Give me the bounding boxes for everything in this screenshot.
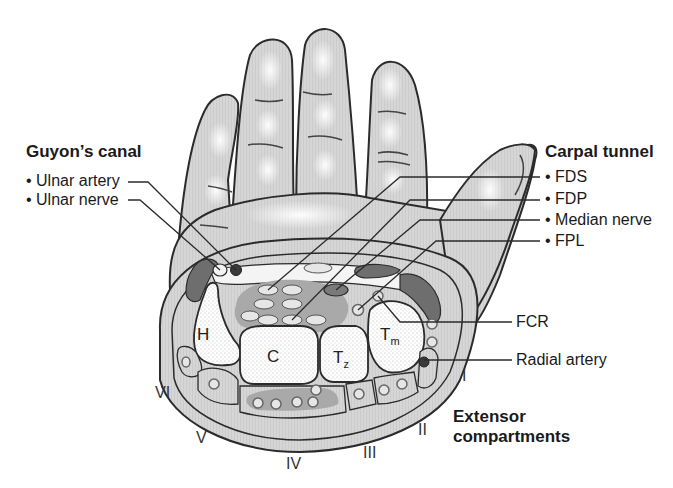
carpal-tunnel-title: Carpal tunnel (545, 143, 654, 160)
palmaris-tendon (304, 263, 332, 273)
trapezoid-bone (320, 326, 368, 382)
extensor-title-line2: compartments (453, 428, 570, 445)
wrist-cross-section: H C Tz Tm (160, 239, 478, 452)
compartment-label-iii: III (363, 445, 376, 461)
extensor-title-line1: Extensor (453, 408, 526, 425)
carpal-tunnel-item-fds: • FDS (545, 169, 587, 185)
fdp-tendon (282, 299, 302, 309)
guyons-canal-item-ulnar-artery: • Ulnar artery (26, 173, 120, 189)
guyons-canal-item-ulnar-nerve: • Ulnar nerve (26, 192, 119, 208)
fds-tendon (282, 285, 302, 295)
compartment-label-v: V (196, 430, 207, 446)
carpal-tunnel-item-fpl: • FPL (545, 233, 584, 249)
bone-label-hamate: H (197, 325, 209, 344)
fdp-tendon (306, 315, 326, 325)
fdp-tendon (258, 315, 278, 325)
carpal-tunnel-item-fdp: • FDP (545, 191, 587, 207)
label-radial-artery: Radial artery (516, 352, 607, 368)
carpal-tunnel-item-median-nerve: • Median nerve (545, 212, 652, 228)
compartment-label-ii: II (418, 422, 427, 438)
compartment-label-vi: VI (155, 385, 170, 401)
label-fcr: FCR (516, 314, 549, 330)
guyons-canal-title: Guyon’s canal (26, 143, 142, 160)
fdp-tendon (241, 311, 259, 321)
radial-artery (419, 357, 429, 367)
compartment-label-i: I (462, 368, 466, 384)
bone-label-capitate: C (267, 347, 279, 366)
compartment-label-iv: IV (286, 456, 301, 472)
fdp-tendon (254, 299, 274, 309)
